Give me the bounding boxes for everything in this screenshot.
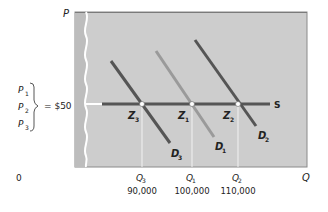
- price-value-label: = $50: [44, 101, 72, 111]
- svg-text:1: 1: [185, 116, 189, 123]
- svg-text:90,000: 90,000: [127, 186, 157, 196]
- q2-tick: Q 2 110,000: [220, 173, 255, 196]
- equilibrium-point-z1: [190, 102, 195, 107]
- svg-text:110,000: 110,000: [220, 186, 255, 196]
- svg-text:2: 2: [265, 136, 269, 143]
- svg-text:2: 2: [25, 107, 29, 114]
- price-labels: P 1 P 2 P 3 = $50: [18, 83, 72, 131]
- equilibrium-point-z3: [140, 102, 145, 107]
- svg-text:1: 1: [25, 90, 29, 97]
- q-axis-label: Q: [302, 172, 310, 183]
- svg-text:3: 3: [178, 154, 182, 161]
- svg-text:P: P: [18, 85, 24, 95]
- supply-label: S: [274, 100, 280, 110]
- origin-label: 0: [16, 173, 22, 183]
- plot-area: [75, 12, 307, 167]
- svg-text:100,000: 100,000: [174, 186, 209, 196]
- svg-text:3: 3: [25, 124, 29, 131]
- svg-text:P: P: [18, 102, 24, 112]
- svg-text:3: 3: [142, 177, 146, 184]
- brace-icon: [30, 83, 38, 131]
- q1-tick: Q 1 100,000: [174, 173, 209, 196]
- q3-tick: Q 3 90,000: [127, 173, 157, 196]
- svg-text:1: 1: [222, 147, 226, 154]
- svg-text:3: 3: [135, 116, 139, 123]
- svg-text:2: 2: [230, 116, 234, 123]
- svg-text:2: 2: [238, 177, 242, 184]
- p-axis-label: P: [63, 8, 70, 19]
- axis-band: [75, 12, 86, 167]
- svg-text:1: 1: [192, 177, 196, 184]
- equilibrium-point-z2: [236, 102, 241, 107]
- supply-demand-chart: P Q 0 P 1 P 2 P 3 = $50 S Z 3 Z 1 Z 2 D …: [0, 0, 328, 212]
- svg-text:P: P: [18, 119, 24, 129]
